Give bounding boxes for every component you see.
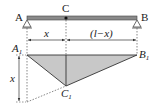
point-c [64,16,67,19]
influence-triangle [27,55,137,86]
beam [27,16,137,20]
label-vertical-x: x [9,72,15,84]
label-b: B [141,11,148,23]
label-b1: B1 [139,48,149,62]
label-a1: A1 [11,42,22,56]
label-c: C [62,2,69,14]
label-c1: C1 [61,87,72,101]
label-dim-l-minus-x: (l−x) [90,27,113,40]
label-dim-x: x [43,27,49,39]
label-a: A [15,11,23,23]
support-a [23,20,31,27]
support-b [133,20,141,27]
beam-diagram: A B C x (l−x) A1 B1 C1 x [0,0,155,109]
